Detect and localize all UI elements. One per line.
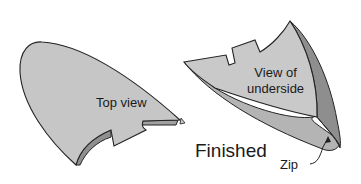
top-view-label: Top view: [96, 95, 147, 110]
zip-label: Zip: [280, 157, 298, 172]
diagram-canvas: [0, 0, 361, 184]
underside-label-line2: underside: [247, 81, 304, 97]
underside-label-line1: View of: [247, 65, 304, 81]
underside-view-label: View of underside: [247, 65, 304, 97]
edge-tip: [180, 118, 185, 124]
finished-label: Finished: [195, 140, 267, 162]
